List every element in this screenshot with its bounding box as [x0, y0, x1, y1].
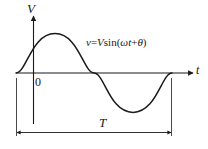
equation-omega: ω — [120, 36, 128, 48]
equation-amplitude: V — [97, 36, 104, 48]
period-label: T — [99, 116, 106, 129]
equation-annotation: v=Vsin(ωt+θ) — [86, 37, 147, 48]
waveform-figure: V t 0 T v=Vsin(ωt+θ) — [0, 0, 208, 149]
equation-function: sin — [104, 36, 117, 48]
origin-label: 0 — [35, 76, 41, 88]
equation-close-paren: ) — [143, 36, 147, 48]
x-axis-label: t — [196, 64, 199, 76]
y-axis-label: V — [27, 2, 35, 15]
